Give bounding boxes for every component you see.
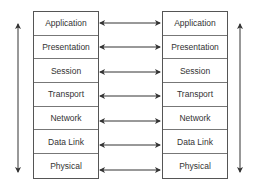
- arrows-overlay: [0, 0, 258, 192]
- peer-arrows: [100, 23, 160, 170]
